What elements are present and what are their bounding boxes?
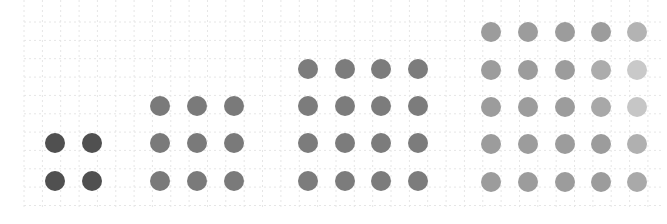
dot (187, 96, 207, 116)
dot (555, 22, 575, 42)
dot (481, 60, 501, 80)
dot (518, 134, 538, 154)
dot (518, 22, 538, 42)
dot (371, 133, 391, 153)
dot (224, 96, 244, 116)
dot (518, 172, 538, 192)
dot (371, 171, 391, 191)
dot (555, 60, 575, 80)
dot (555, 97, 575, 117)
dot (298, 96, 318, 116)
dot (335, 96, 355, 116)
dot (408, 96, 428, 116)
dot (187, 133, 207, 153)
dot (627, 134, 647, 154)
dot (150, 96, 170, 116)
dot (627, 97, 647, 117)
dot (627, 22, 647, 42)
dot (298, 171, 318, 191)
dot (187, 171, 207, 191)
dot (627, 172, 647, 192)
dot (335, 59, 355, 79)
dot (518, 97, 538, 117)
dot (555, 134, 575, 154)
dot (224, 171, 244, 191)
dot (555, 172, 575, 192)
dot (371, 59, 391, 79)
dot (150, 171, 170, 191)
dot (591, 134, 611, 154)
dot (518, 60, 538, 80)
dot (481, 134, 501, 154)
dot (481, 22, 501, 42)
dot (45, 133, 65, 153)
dot (591, 97, 611, 117)
dot (82, 133, 102, 153)
dot (335, 171, 355, 191)
dot-array-diagram (0, 0, 667, 224)
dot (627, 60, 647, 80)
dot (408, 171, 428, 191)
dot (591, 172, 611, 192)
dot (335, 133, 355, 153)
dot (408, 133, 428, 153)
dot (371, 96, 391, 116)
dot (298, 59, 318, 79)
dot (408, 59, 428, 79)
dot (298, 133, 318, 153)
dot (481, 172, 501, 192)
dot (224, 133, 244, 153)
dot (82, 171, 102, 191)
dot (45, 171, 65, 191)
dot (591, 60, 611, 80)
dot (150, 133, 170, 153)
dot (481, 97, 501, 117)
dot (591, 22, 611, 42)
